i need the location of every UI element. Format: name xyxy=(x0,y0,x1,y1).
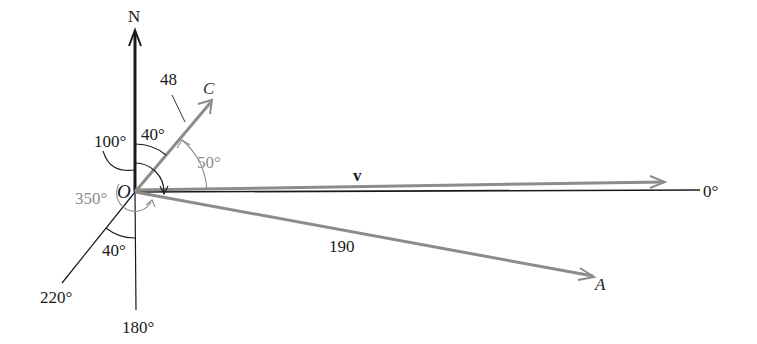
vector-a-label: A xyxy=(594,275,606,294)
angle-label-40-southwest: 40° xyxy=(102,241,126,260)
south-axis xyxy=(135,192,136,310)
vector-v xyxy=(135,176,665,190)
angle-arc-southwest-to-south xyxy=(106,228,135,238)
vector-a xyxy=(135,192,594,280)
east-axis-label: 0° xyxy=(703,182,718,201)
north-axis xyxy=(129,30,141,192)
east-axis xyxy=(135,190,700,192)
vector-c xyxy=(135,100,212,192)
angle-label-100: 100° xyxy=(94,132,126,151)
vector-c-magnitude-leader xyxy=(172,95,185,122)
vector-v-label: v xyxy=(353,166,362,185)
vector-c-label: C xyxy=(203,79,215,98)
vector-diagram: N 0° 180° 220° C 48 v A 190 O 40° 50° 10… xyxy=(0,0,757,344)
angle-label-40-north-c: 40° xyxy=(141,125,165,144)
vector-c-magnitude: 48 xyxy=(160,70,177,89)
north-label: N xyxy=(128,7,140,26)
angle-label-50: 50° xyxy=(197,153,221,172)
vector-a-magnitude: 190 xyxy=(329,237,355,256)
south-axis-label: 180° xyxy=(122,318,154,337)
angle-arc-north-to-c xyxy=(135,144,166,155)
angle-label-350: 350° xyxy=(75,189,107,208)
southwest-axis-label: 220° xyxy=(40,288,72,307)
